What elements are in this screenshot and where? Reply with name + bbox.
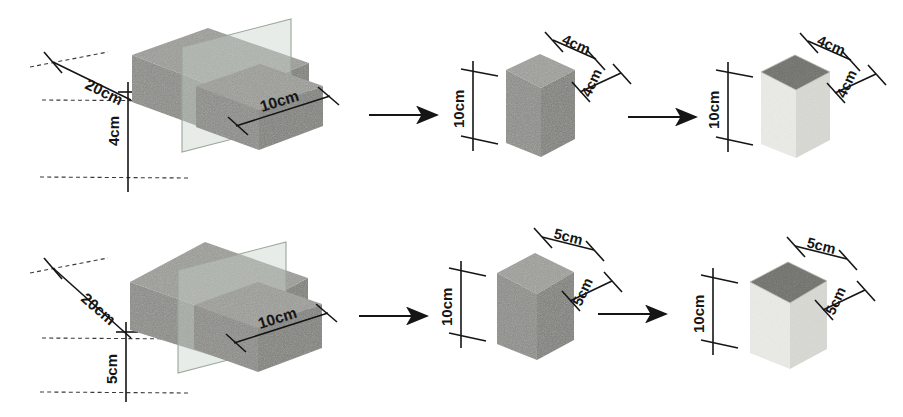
specimen-preparation-figure: 20cm 4cm [0,0,903,417]
coated-prism-row2 [750,262,827,369]
label-10cm-height-row1-coated: 10cm [705,91,722,129]
label-4cm-row1: 4cm [105,116,122,146]
label-10cm-height-row2: 10cm [438,288,455,326]
coated-prism-row1 [761,55,830,158]
cut-prism-row1 [506,54,575,157]
label-10cm-height-row1: 10cm [450,90,467,128]
cut-prism-row2 [497,253,574,360]
label-10cm-height-row2-coated: 10cm [690,295,707,333]
label-5cm-row2: 5cm [103,354,120,384]
